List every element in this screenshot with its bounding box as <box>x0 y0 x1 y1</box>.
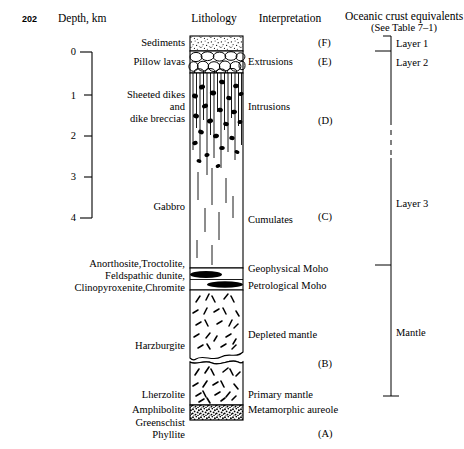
unit-sheeted-dikes-and-gabbro <box>190 73 244 268</box>
geophysical-moho-lens <box>190 271 222 278</box>
petrological-moho-lens <box>207 281 243 287</box>
depth-axis <box>80 52 92 218</box>
ophiolite-stratigraphic-column-figure: 202 Depth, km Lithology Interpretation O… <box>0 0 464 449</box>
stratigraphic-column <box>189 36 245 420</box>
unit-moho-transition <box>190 268 243 290</box>
unit-sediments <box>190 36 243 51</box>
unit-pillow-lavas <box>189 51 245 75</box>
unit-harzburgite-depleted-mantle <box>190 290 243 360</box>
unit-metamorphic-aureole <box>190 405 243 420</box>
unit-lherzolite-primary-mantle <box>190 361 243 405</box>
figure-vector-layer <box>0 0 464 449</box>
oceanic-crust-bracket-axis <box>375 36 399 396</box>
